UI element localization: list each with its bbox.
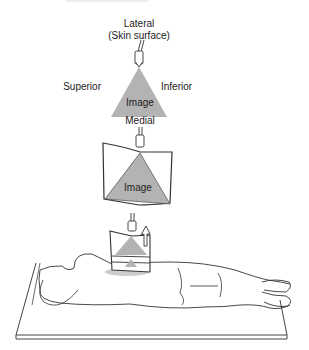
- patient-arm: [40, 280, 78, 305]
- probe-icon: [136, 135, 144, 147]
- patient-body: [39, 254, 290, 309]
- patient-buttocks: [178, 268, 184, 305]
- patient-foot-upper: [262, 280, 290, 292]
- exam-table-edge: [16, 335, 287, 339]
- label-inferior: Inferior: [161, 81, 193, 92]
- patient-scene: [16, 213, 291, 339]
- ultrasound-orientation-diagram: Lateral (Skin surface) Superior Inferior…: [0, 0, 309, 350]
- image-sector-top: [111, 67, 167, 117]
- probe-cable-icon: [138, 40, 144, 52]
- patient-calf: [218, 273, 222, 297]
- label-superior: Superior: [63, 81, 101, 92]
- probe-tip-icon: [136, 62, 143, 67]
- top-view: Lateral (Skin surface) Superior Inferior…: [63, 18, 193, 126]
- label-medial: Medial: [125, 115, 154, 126]
- label-lateral: Lateral: [124, 18, 155, 29]
- middle-view: Image: [103, 127, 172, 205]
- patient-foot-lower: [262, 292, 291, 307]
- label-image-top: Image: [126, 97, 154, 108]
- probe-icon: [128, 221, 136, 231]
- label-image-middle: Image: [124, 182, 152, 193]
- label-skin-surface: (Skin surface): [108, 30, 170, 41]
